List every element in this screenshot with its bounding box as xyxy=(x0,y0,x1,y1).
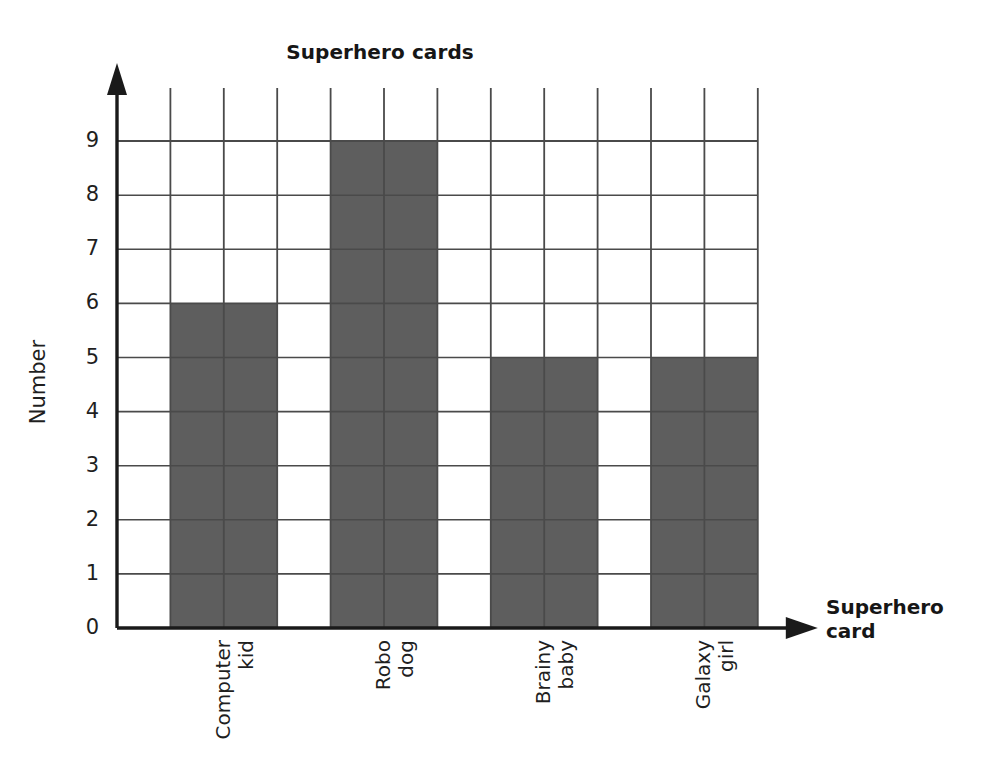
y-tick-label-3: 3 xyxy=(69,455,99,476)
bars-layer xyxy=(170,141,757,628)
y-axis-title: Number xyxy=(26,322,50,442)
y-axis-arrowhead xyxy=(107,63,127,95)
plot-area xyxy=(0,0,999,783)
x-category-label-galaxy-girl: Galaxygirl xyxy=(692,640,716,783)
y-tick-label-9: 9 xyxy=(69,130,99,151)
y-tick-label-6: 6 xyxy=(69,292,99,313)
y-tick-label-0: 0 xyxy=(69,617,99,638)
x-category-label-brainy-baby: Brainybaby xyxy=(532,640,556,783)
y-tick-label-7: 7 xyxy=(69,238,99,259)
y-tick-label-1: 1 xyxy=(69,563,99,584)
y-tick-label-5: 5 xyxy=(69,347,99,368)
y-tick-label-4: 4 xyxy=(69,401,99,422)
x-category-label-computer-kid: Computerkid xyxy=(212,640,236,783)
y-tick-label-8: 8 xyxy=(69,184,99,205)
x-category-label-robo-dog: Robodog xyxy=(372,640,396,783)
y-tick-label-2: 2 xyxy=(69,509,99,530)
x-axis-title: Superhero card xyxy=(826,595,944,643)
bar-chart: Superhero cards 0123456789 Number Superh… xyxy=(0,0,999,783)
x-axis-arrowhead xyxy=(786,617,818,639)
